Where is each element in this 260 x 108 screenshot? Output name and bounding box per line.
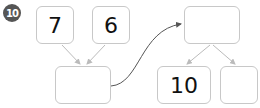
box-bottom-middle: 10 [157,66,211,104]
box-top-middle: 6 [92,6,130,44]
arrow-6-to-sum [87,45,105,64]
arrow-top-right-to-10 [187,45,210,64]
box-top-left: 7 [36,6,74,44]
answer-box-bottom-left[interactable] [55,66,111,104]
answer-box-top-right[interactable] [184,6,240,44]
answer-box-bottom-right[interactable] [220,66,258,104]
arrow-top-right-to-blank [213,45,235,64]
arrow-7-to-sum [62,45,80,64]
